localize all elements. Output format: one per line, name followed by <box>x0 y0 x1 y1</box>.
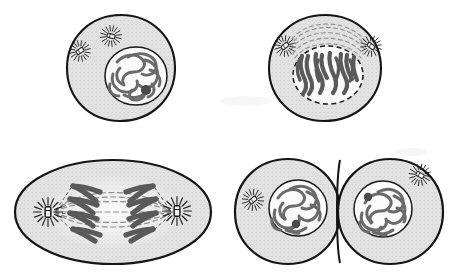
nucleus-prophase <box>105 47 167 105</box>
panel-prophase <box>65 15 175 121</box>
panel-telophase <box>235 159 443 264</box>
nucleus-daughter-left <box>269 180 327 236</box>
nucleolus <box>141 85 151 95</box>
centriole-aster-right <box>163 197 192 226</box>
mitosis-figure <box>0 0 455 274</box>
nucleolus <box>364 193 372 201</box>
nucleolus <box>292 220 300 228</box>
panel-anaphase <box>15 160 211 264</box>
centriole-aster-left <box>34 198 63 227</box>
mitosis-diagram-canvas <box>0 0 455 274</box>
nucleus-daughter-right <box>354 181 412 237</box>
